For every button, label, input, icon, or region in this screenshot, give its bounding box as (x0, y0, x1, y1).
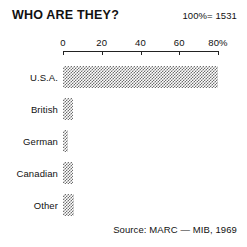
bar-row: Other (0, 194, 247, 216)
x-axis-tick-label: 60 (174, 37, 185, 48)
bar-category-label: Other (34, 200, 58, 211)
x-axis-tick (218, 51, 219, 55)
page-title: WHO ARE THEY? (12, 8, 119, 22)
x-axis-tick-label: 40 (135, 37, 146, 48)
bar (63, 66, 218, 88)
source-caption: Source: MARC — MIB, 1969 (113, 224, 237, 235)
bar-category-label: Canadian (17, 168, 58, 179)
chart-figure: WHO ARE THEY? 100%= 1531 020406080% U.S.… (0, 0, 247, 247)
x-axis-tick (102, 51, 103, 55)
bar-category-label: British (31, 104, 58, 115)
bar-category-label: German (23, 136, 58, 147)
x-axis-tick-label: 80% (208, 37, 227, 48)
x-axis-tick (179, 51, 180, 55)
bar (63, 130, 68, 152)
bar (63, 162, 73, 184)
x-axis-tick-label: 20 (96, 37, 107, 48)
bar-row: U.S.A. (0, 66, 247, 88)
bar-row: Canadian (0, 162, 247, 184)
bars-plot-area: U.S.A.BritishGermanCanadianOther (0, 62, 247, 222)
x-axis: 020406080% (63, 37, 218, 55)
x-axis-tick-label: 0 (60, 37, 65, 48)
bar-category-label: U.S.A. (30, 72, 58, 83)
x-axis-tick (63, 51, 64, 55)
bar-row: British (0, 98, 247, 120)
bar (63, 194, 74, 216)
x-axis-tick (141, 51, 142, 55)
total-note: 100%= 1531 (182, 10, 237, 21)
bar-row: German (0, 130, 247, 152)
bar (63, 98, 73, 120)
